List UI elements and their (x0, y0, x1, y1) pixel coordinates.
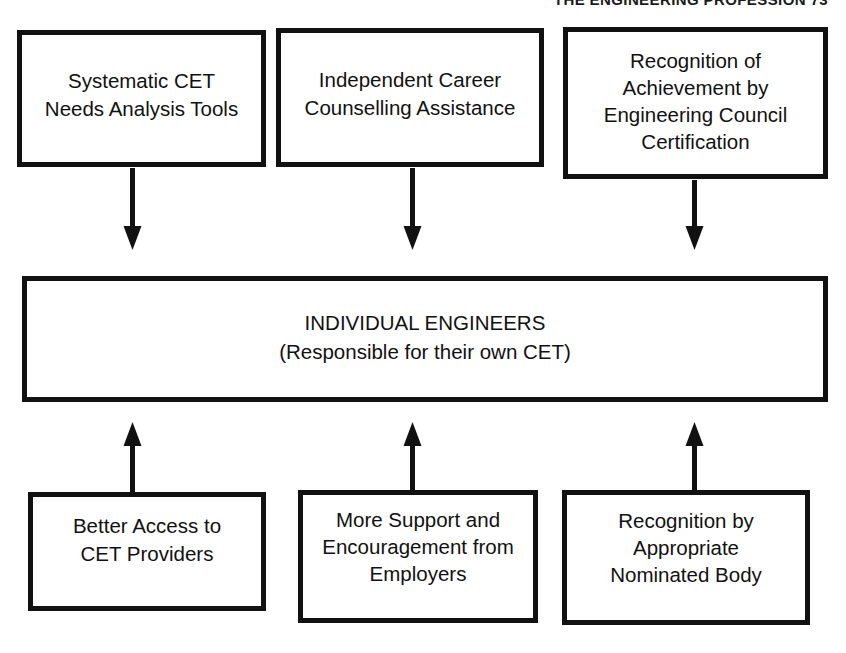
box-recognition-of-achievement-by-engineering-council-certification: Recognition of Achievement by Engineerin… (563, 27, 828, 179)
box-label: INDIVIDUAL ENGINEERS (Responsible for th… (273, 308, 577, 366)
box-recognition-by-appropriate-nominated-body: Recognition by Appropriate Nominated Bod… (562, 490, 810, 625)
box-label: Better Access to CET Providers (67, 512, 227, 567)
arrow-down-icon (402, 168, 424, 252)
arrow-up-icon (684, 422, 706, 494)
box-more-support-and-encouragement-from-employers: More Support and Encouragement from Empl… (298, 490, 538, 623)
box-label: Systematic CET Needs Analysis Tools (39, 67, 244, 122)
flowchart-diagram: THE ENGINEERING PROFESSION 73 Systematic… (0, 0, 846, 653)
arrow-down-icon (122, 168, 144, 252)
box-label: Independent Career Counselling Assistanc… (299, 66, 522, 121)
box-individual-engineers: INDIVIDUAL ENGINEERS (Responsible for th… (22, 276, 828, 402)
box-systematic-cet-needs-analysis-tools: Systematic CET Needs Analysis Tools (17, 30, 266, 167)
box-better-access-to-cet-providers: Better Access to CET Providers (28, 492, 266, 611)
running-header: THE ENGINEERING PROFESSION 73 (554, 0, 828, 8)
box-label: Recognition of Achievement by Engineerin… (598, 47, 793, 156)
arrow-down-icon (684, 180, 706, 252)
box-label: Recognition by Appropriate Nominated Bod… (604, 507, 768, 589)
box-independent-career-counselling-assistance: Independent Career Counselling Assistanc… (276, 28, 544, 167)
arrow-up-icon (122, 422, 144, 494)
box-label: More Support and Encouragement from Empl… (316, 506, 519, 588)
arrow-up-icon (402, 422, 424, 494)
